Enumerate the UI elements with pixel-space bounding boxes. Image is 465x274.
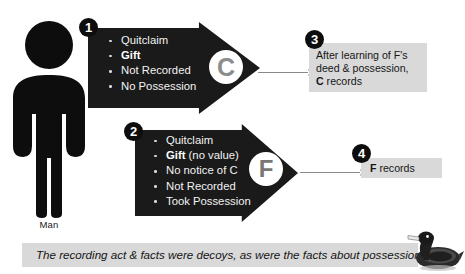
step-badge-3: 3 [305,30,324,49]
result-3-line-3: records [324,75,362,87]
result-3-line-2: deed & possession, [316,62,408,74]
list-item: Quitclaim [152,133,251,148]
list-item: No Possession [107,79,196,94]
step-2-bullet-list: Quitclaim Gift (no value) No notice of C… [152,133,251,209]
step-badge-2: 2 [124,122,143,141]
actor-medallion-c: C [209,50,243,84]
list-item: Quitclaim [107,33,196,48]
actor-medallion-f: F [249,152,283,186]
result-box-4: F records [361,158,442,178]
caption-text: The recording act & facts were decoys, a… [36,243,416,267]
connector-arrow-to-result-4 [300,163,364,172]
step-badge-4: 4 [352,144,371,163]
list-item: Took Possession [152,194,251,209]
duck-decoy-icon [402,227,464,273]
result-4-text: records [376,162,414,174]
list-item: Not Recorded [107,63,196,78]
step-1-bullet-list: Quitclaim Gift Not Recorded No Possessio… [107,33,196,94]
list-item: Gift (no value) [152,148,251,163]
result-box-3: After learning of F's deed & possession,… [309,43,427,92]
list-item: Gift [107,48,196,63]
result-3-actor: C [316,75,324,87]
person-label: Man [6,219,92,230]
diagram-canvas: Man Quitclaim Gift Not Recorded No Posse… [0,0,465,274]
result-3-line-1: After learning of F's [316,49,408,61]
step-badge-1: 1 [79,18,98,37]
person-pictogram-icon [6,18,92,218]
connector-arrow-to-result-3 [258,63,312,72]
list-item: Not Recorded [152,179,251,194]
list-item: No notice of C [152,163,251,178]
